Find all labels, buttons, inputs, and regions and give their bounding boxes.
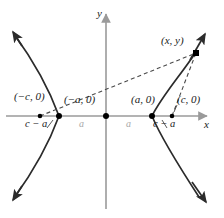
point-origin[interactable] [103, 113, 109, 119]
point-left-vertex[interactable] [56, 113, 62, 119]
left-c-minus-a-leader [47, 120, 53, 128]
label-left-vertex: (−a, 0) [64, 94, 95, 105]
label-x-axis: x [204, 119, 209, 130]
label-right-vertex: (a, 0) [131, 94, 155, 105]
label-left-c-minus-a: c − a [25, 119, 47, 130]
label-y-axis: y [97, 8, 102, 19]
left-branch-lower-arrow [13, 186, 22, 200]
label-curve-point-xy: (x, y) [161, 35, 184, 46]
label-left-a: a [79, 119, 84, 129]
hyperbola-figure: (−c, 0) (−a, 0) (a, 0) (c, 0) (x, y) c −… [0, 0, 224, 218]
label-right-a: a [126, 119, 131, 129]
point-curve-xy[interactable] [193, 50, 199, 56]
right-branch-upper-arrow [190, 34, 205, 60]
left-branch-upper-arrow [13, 32, 22, 46]
label-right-c-minus-a: c − a [153, 119, 175, 130]
label-right-focus: (c, 0) [177, 94, 200, 105]
figure-canvas [0, 0, 224, 218]
label-left-focus: (−c, 0) [14, 91, 45, 102]
right-branch-lower-arrow [192, 182, 206, 202]
dashed-line-right-focus-to-point [172, 53, 196, 116]
